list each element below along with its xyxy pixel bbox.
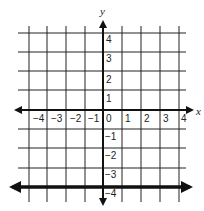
svg-text:−4: −4 bbox=[105, 188, 117, 199]
svg-text:3: 3 bbox=[106, 53, 112, 64]
x-axis-label: x bbox=[195, 105, 201, 117]
coordinate-plane: y x −4 −3 −2 −1 0 1 2 3 4 4 3 2 1 −1 −2 … bbox=[0, 0, 204, 211]
svg-text:3: 3 bbox=[163, 113, 169, 124]
svg-text:2: 2 bbox=[144, 113, 150, 124]
svg-text:4: 4 bbox=[106, 34, 112, 45]
x-tick-labels: −4 −3 −2 −1 0 1 2 3 4 bbox=[33, 113, 187, 124]
svg-text:1: 1 bbox=[106, 93, 112, 104]
svg-text:−2: −2 bbox=[70, 113, 82, 124]
svg-text:−3: −3 bbox=[51, 113, 63, 124]
svg-text:2: 2 bbox=[106, 74, 112, 85]
svg-text:−1: −1 bbox=[105, 131, 117, 142]
svg-text:0: 0 bbox=[106, 113, 112, 124]
svg-text:−4: −4 bbox=[33, 113, 45, 124]
svg-text:−2: −2 bbox=[105, 150, 117, 161]
svg-text:−3: −3 bbox=[105, 169, 117, 180]
svg-text:−1: −1 bbox=[88, 113, 100, 124]
svg-text:1: 1 bbox=[125, 113, 131, 124]
y-axis-label: y bbox=[99, 5, 105, 17]
svg-text:4: 4 bbox=[181, 113, 187, 124]
